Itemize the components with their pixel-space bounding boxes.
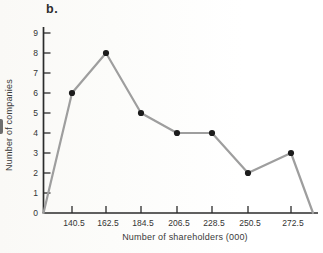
y-tick-label: 9	[33, 28, 38, 38]
data-point	[103, 50, 109, 56]
y-tick-label: 3	[33, 148, 38, 158]
y-tick-label: 6	[33, 88, 38, 98]
y-tick-label: 5	[33, 108, 38, 118]
chart-svg: 0123456789140.5162.5184.5206.5228.5250.5…	[0, 0, 323, 253]
x-tick-label: 162.5	[97, 218, 119, 228]
y-tick-label: 1	[33, 188, 38, 198]
data-point	[209, 130, 215, 136]
y-tick-label: 4	[33, 128, 38, 138]
x-tick-label: 272.5	[282, 218, 304, 228]
figure-panel: b. 0123456789140.5162.5184.5206.5228.525…	[0, 0, 323, 253]
x-tick-label: 140.5	[63, 218, 85, 228]
data-point	[138, 110, 144, 116]
x-tick-label: 228.5	[203, 218, 225, 228]
data-point	[69, 90, 75, 96]
y-tick-label: 2	[33, 168, 38, 178]
x-tick-label: 184.5	[132, 218, 154, 228]
data-point	[245, 170, 251, 176]
data-point	[288, 150, 294, 156]
y-tick-label: 8	[33, 48, 38, 58]
data-point	[174, 130, 180, 136]
x-tick-label: 206.5	[168, 218, 190, 228]
x-tick-label: 250.5	[239, 218, 261, 228]
y-axis-title: Number of companies	[4, 25, 18, 225]
x-axis-title: Number of shareholders (000)	[75, 232, 295, 242]
y-tick-label: 0	[33, 208, 38, 218]
y-tick-label: 7	[33, 68, 38, 78]
